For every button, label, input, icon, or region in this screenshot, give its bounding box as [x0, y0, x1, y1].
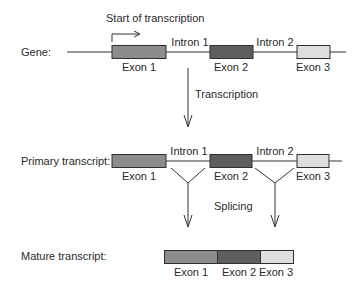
transcription-start-arrow-icon [112, 31, 140, 42]
start-of-transcription-label: Start of transcription [106, 12, 204, 24]
splice-junction-1-icon [171, 168, 205, 227]
primary-exon-3-label: Exon 3 [296, 170, 330, 182]
mature-exon-2-box [218, 251, 261, 264]
gene-exon-2-box [210, 46, 253, 59]
primary-intron-1-label: Intron 1 [170, 145, 207, 157]
splice-junction-2-icon [255, 168, 294, 227]
mature-exon-2-label: Exon 2 [222, 266, 256, 278]
primary-exon-3-box [297, 155, 329, 168]
primary-exon-1-label: Exon 1 [122, 170, 156, 182]
mature-transcript-label: Mature transcript: [21, 250, 107, 262]
primary-intron-2-label: Intron 2 [256, 145, 293, 157]
gene-exon-2-label: Exon 2 [214, 61, 248, 73]
primary-transcript-row [112, 155, 342, 168]
splicing-label: Splicing [214, 200, 253, 212]
mature-exon-1-box [165, 251, 218, 264]
primary-exon-2-box [210, 155, 252, 168]
gene-label: Gene: [21, 46, 51, 58]
transcription-arrow-icon [184, 68, 192, 127]
gene-exon-1-box [112, 46, 166, 59]
transcription-label: Transcription [195, 88, 258, 100]
mature-exon-3-label: Exon 3 [259, 266, 293, 278]
gene-exon-3-label: Exon 3 [296, 61, 330, 73]
mature-transcript-bar [165, 251, 294, 264]
primary-exon-2-label: Exon 2 [214, 170, 248, 182]
gene-intron-1-label: Intron 1 [171, 36, 208, 48]
primary-transcript-label: Primary transcript: [21, 155, 110, 167]
gene-exon-1-label: Exon 1 [122, 61, 156, 73]
primary-exon-1-box [112, 155, 166, 168]
mature-exon-1-label: Exon 1 [174, 266, 208, 278]
gene-intron-2-label: Intron 2 [256, 36, 293, 48]
mature-exon-3-box [261, 251, 294, 264]
gene-exon-3-box [297, 46, 330, 59]
